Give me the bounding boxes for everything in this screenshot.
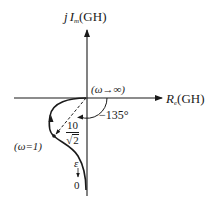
magnitude-denominator: √2 <box>66 133 79 146</box>
magnitude-fraction: 10 √2 <box>66 120 79 146</box>
magnitude-numerator: 10 <box>66 120 79 133</box>
imag-label-suffix: (GH) <box>79 9 106 24</box>
angle-label: −135° <box>99 109 129 121</box>
omega-one-point <box>52 134 56 138</box>
nyquist-diagram: jIm(GH) Re(GH) (ω→∞) −135° 10 √2 (ω=1) ε… <box>0 0 213 208</box>
real-label-suffix: (GH) <box>177 91 204 106</box>
omega-infinity-label: (ω→∞) <box>91 84 125 95</box>
real-label-r: R <box>166 91 174 106</box>
zero-label: 0 <box>74 180 80 191</box>
imag-label-j: j <box>64 9 68 24</box>
imaginary-axis-label: jIm(GH) <box>64 10 106 25</box>
sqrt-value: 2 <box>72 134 79 146</box>
real-axis-label: Re(GH) <box>166 92 205 107</box>
omega-one-label: (ω=1) <box>14 141 42 152</box>
epsilon-label: ε <box>74 158 78 169</box>
